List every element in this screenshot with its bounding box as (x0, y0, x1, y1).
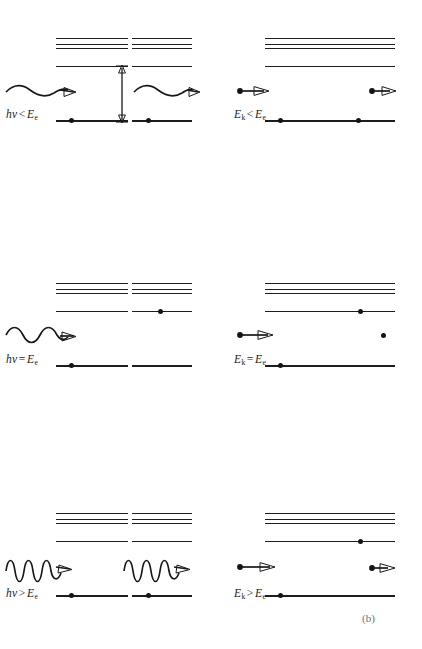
outgoing-electron-arrow (330, 20, 420, 160)
atom-before: Ek=Ee (212, 265, 344, 405)
photon-column-equal-to: hν=Ee (0, 265, 190, 405)
electron-energy-label: Ek>Ee (234, 587, 266, 599)
excitation-figure: hν<Ee (0, 0, 422, 649)
incoming-photon-wave (0, 495, 132, 635)
electron-column-less-than: Ek<Ee (212, 20, 402, 160)
electron-column-equal-to: Ek=Ee (212, 265, 402, 405)
atom-after (132, 265, 190, 405)
electron-dot (358, 309, 363, 314)
level-4 (330, 289, 395, 290)
energy-gap-arrow (0, 20, 132, 160)
level-5 (330, 283, 395, 284)
atom-before: hν<Ee (0, 20, 132, 160)
atom-after (132, 20, 190, 160)
electron-energy-label: Ek=Ee (234, 353, 266, 365)
atom-before: Ek>Ee (212, 495, 344, 635)
incoming-photon-wave (0, 265, 132, 405)
level-ground (330, 365, 395, 367)
photon-energy-label: hν=Ee (6, 353, 38, 365)
atom-before: hν=Ee (0, 265, 132, 405)
row-less-than: hν<Ee (0, 20, 422, 160)
level-3 (132, 293, 192, 294)
incoming-electron-arrow (212, 495, 344, 635)
incoming-electron-arrow (212, 20, 344, 160)
photon-column-greater-than: hν>Ee (0, 495, 190, 635)
atom-after (132, 495, 190, 635)
photon-column-less-than: hν<Ee (0, 20, 190, 160)
photon-energy-label: hν>Ee (6, 587, 38, 599)
atom-before: hν>Ee (0, 495, 132, 635)
level-3 (330, 293, 395, 294)
outgoing-electron-arrow (330, 495, 420, 635)
atom-after (330, 265, 402, 405)
outgoing-photon-wave (132, 20, 202, 160)
row-greater-than: hν>Ee (0, 495, 422, 635)
atom-before: Ek<Ee (212, 20, 344, 160)
figure-caption: (b) (362, 612, 375, 624)
electron-energy-label: Ek<Ee (234, 108, 266, 120)
row-equal-to: hν=Ee (0, 265, 422, 405)
level-4 (132, 289, 192, 290)
electron-dot (158, 309, 163, 314)
incoming-electron-arrow (212, 265, 344, 405)
level-5 (132, 283, 192, 284)
stopped-electron-dot (381, 333, 386, 338)
atom-after (330, 20, 402, 160)
level-ground (132, 365, 192, 367)
outgoing-photon-wave (132, 495, 212, 635)
